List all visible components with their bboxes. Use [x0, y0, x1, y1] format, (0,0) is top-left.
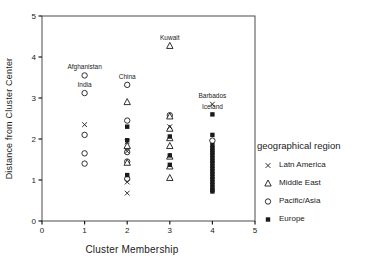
legend-item-label: Europe [279, 214, 305, 223]
circle-marker-icon [82, 151, 87, 156]
x-tick-label: 1 [82, 226, 87, 235]
y-tick-label: 2 [32, 135, 37, 144]
circle-marker-icon [82, 73, 87, 78]
x-axis-title: Cluster Membership [32, 244, 232, 255]
square-filled-icon [263, 214, 273, 224]
triangle-marker-icon [167, 42, 173, 48]
point-annotation: Kuwait [160, 34, 180, 41]
y-tick-label: 4 [32, 53, 37, 62]
filled-square-marker-icon [266, 217, 270, 221]
legend-item-label: Latn America [279, 160, 326, 169]
legend-title: geographical region [257, 140, 340, 151]
circle-marker-icon [125, 118, 130, 123]
x-marker-icon [82, 122, 87, 127]
legend-item-europe: Europe [263, 213, 340, 224]
circle-open-icon [263, 196, 273, 206]
x-tick-label: 0 [40, 226, 45, 235]
x-marker-icon [125, 191, 130, 196]
point-annotation: Iceland [202, 103, 223, 110]
triangle-open-icon [263, 178, 273, 188]
triangle-marker-icon [124, 99, 130, 105]
circle-marker-icon [82, 90, 87, 95]
point-annotation: India [78, 81, 92, 88]
scatter-chart-figure: 012345012345AfghanistanIndiaChinaKuwaitB… [0, 0, 370, 272]
circle-marker-icon [265, 198, 270, 203]
legend-item-label: Pacific/Asia [279, 196, 320, 205]
series-pacific-asia [82, 73, 215, 182]
filled-square-marker-icon [125, 125, 129, 129]
legend-item-pacific-asia: Pacific/Asia [263, 195, 340, 206]
y-tick-label: 1 [32, 176, 37, 185]
filled-square-marker-icon [168, 134, 172, 138]
triangle-marker-icon [167, 142, 173, 148]
circle-marker-icon [82, 161, 87, 166]
x-tick-label: 2 [125, 226, 130, 235]
circle-marker-icon [82, 132, 87, 137]
filled-square-marker-icon [210, 133, 214, 137]
legend-item-label: Middle East [279, 178, 321, 187]
x-marker-icon [266, 163, 271, 168]
filled-square-marker-icon [125, 173, 129, 177]
y-axis-title: Distance from Cluster Center [4, 19, 17, 219]
series-latn-america [82, 102, 215, 196]
triangle-marker-icon [167, 174, 173, 180]
legend: geographical region Latn AmericaMiddle E… [257, 140, 340, 231]
circle-marker-icon [125, 149, 130, 154]
point-annotation: Afghanistan [67, 63, 102, 71]
scatter-plot: 012345012345AfghanistanIndiaChinaKuwaitB… [0, 0, 370, 272]
x-tick-label: 4 [210, 226, 215, 235]
filled-square-marker-icon [210, 112, 214, 116]
series-middle-east [124, 42, 173, 180]
circle-marker-icon [125, 82, 130, 87]
y-tick-label: 3 [32, 94, 37, 103]
filled-square-marker-icon [168, 153, 172, 157]
point-annotation: Barbados [198, 92, 227, 99]
triangle-marker-icon [265, 180, 271, 186]
triangle-marker-icon [124, 142, 130, 148]
x-icon [263, 160, 273, 170]
point-annotation: China [119, 73, 136, 80]
legend-item-latn-america: Latn America [263, 159, 340, 170]
x-tick-label: 3 [168, 226, 173, 235]
circle-marker-icon [210, 138, 215, 143]
y-tick-label: 5 [32, 12, 37, 21]
filled-square-marker-icon [168, 163, 172, 167]
filled-square-marker-icon [210, 189, 214, 193]
legend-items: Latn AmericaMiddle EastPacific/AsiaEurop… [257, 159, 340, 224]
y-tick-label: 0 [32, 217, 37, 226]
plot-frame [42, 16, 255, 221]
legend-item-middle-east: Middle East [263, 177, 340, 188]
